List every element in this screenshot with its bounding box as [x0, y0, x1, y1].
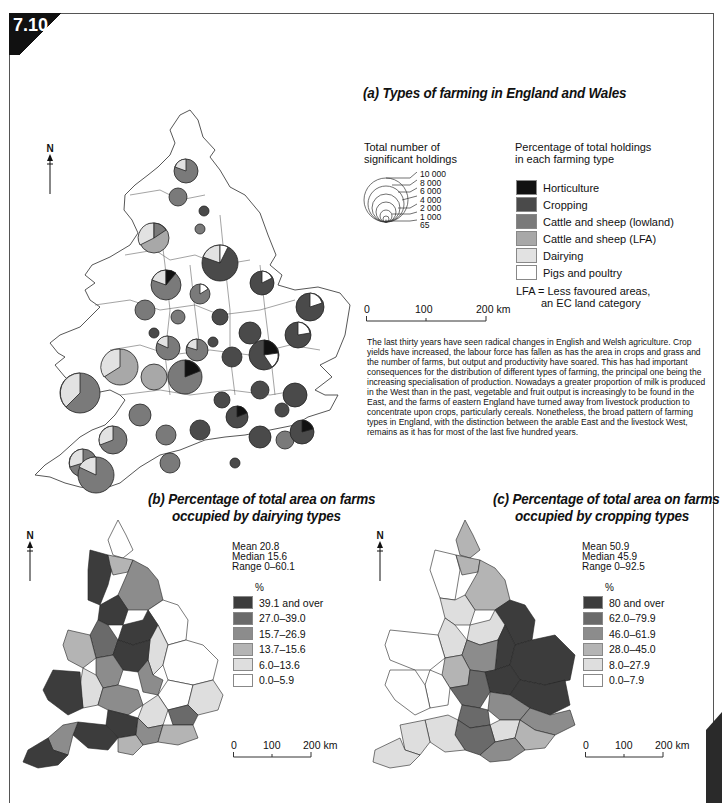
swatch — [233, 612, 253, 625]
page-edge-tab — [706, 730, 722, 803]
class-5: 6.0–13.6 — [233, 658, 323, 671]
legend-cropping: Cropping — [516, 197, 674, 212]
class-6: 0.0–7.9 — [583, 674, 664, 687]
swatch — [233, 596, 253, 609]
map-c-cropping-choropleth — [370, 510, 580, 770]
proportional-circles-legend — [362, 172, 422, 227]
class-3: 15.7–26.9 — [233, 627, 323, 640]
class-6: 0.0–5.9 — [233, 674, 323, 687]
swatch — [233, 674, 253, 687]
swatch — [583, 627, 603, 640]
legend-cattle-lfa: Cattle and sheep (LFA) — [516, 231, 674, 246]
map-b-stats: Mean 20.8 Median 15.6 Range 0–60.1 — [232, 542, 295, 572]
swatch — [583, 643, 603, 656]
class-3: 46.0–61.9 — [583, 627, 664, 640]
legend-cattle-lowland: Cattle and sheep (lowland) — [516, 214, 674, 229]
map-c-title: (c) Percentage of total area on farms oc… — [493, 490, 720, 525]
size-legend-title: Total number of significant holdings — [364, 141, 457, 165]
class-2: 62.0–79.9 — [583, 612, 664, 625]
map-c-stats: Mean 50.9 Median 45.9 Range 0–92.5 — [582, 542, 645, 572]
swatch — [516, 231, 537, 246]
legend-dairying: Dairying — [516, 248, 674, 263]
class-2: 27.0–39.0 — [233, 612, 323, 625]
scale-bar-line — [585, 752, 670, 760]
size-legend-values: 10 000 8 000 6 000 4 000 2 000 1 000 65 — [420, 170, 446, 230]
swatch — [233, 627, 253, 640]
description-paragraph: The last thirty years have seen radical … — [367, 337, 712, 437]
map-c-legend: % 80 and over 62.0–79.9 46.0–61.9 28.0–4… — [583, 582, 664, 689]
class-1: 39.1 and over — [233, 596, 323, 609]
swatch — [583, 612, 603, 625]
farming-type-legend: Horticulture Cropping Cattle and sheep (… — [516, 180, 674, 282]
legend-pigs-poultry: Pigs and poultry — [516, 265, 674, 280]
scale-bar-line — [366, 316, 491, 324]
scale-bar-line — [233, 752, 318, 760]
map-b-dairying-choropleth — [18, 510, 228, 770]
lfa-note: LFA = Less favoured areas, an EC land ca… — [516, 285, 650, 309]
class-5: 8.0–27.9 — [583, 658, 664, 671]
swatch — [516, 265, 537, 280]
swatch — [233, 658, 253, 671]
class-4: 13.7–15.6 — [233, 643, 323, 656]
figure-number: 7.10 — [13, 15, 48, 36]
swatch — [516, 214, 537, 229]
map-b-title: (b) Percentage of total area on farms oc… — [148, 490, 375, 525]
map-b-legend: % 39.1 and over 27.0–39.0 15.7–26.9 13.7… — [233, 582, 323, 689]
map-a-title: (a) Types of farming in England and Wale… — [363, 84, 626, 101]
swatch — [583, 674, 603, 687]
class-4: 28.0–45.0 — [583, 643, 664, 656]
map-a-england-wales-pie-map — [20, 95, 360, 495]
swatch — [583, 596, 603, 609]
legend-horticulture: Horticulture — [516, 180, 674, 195]
swatch — [516, 248, 537, 263]
class-1: 80 and over — [583, 596, 664, 609]
swatch — [233, 643, 253, 656]
swatch — [583, 658, 603, 671]
swatch — [516, 180, 537, 195]
type-legend-title: Percentage of total holdings in each far… — [515, 141, 651, 165]
swatch — [516, 197, 537, 212]
